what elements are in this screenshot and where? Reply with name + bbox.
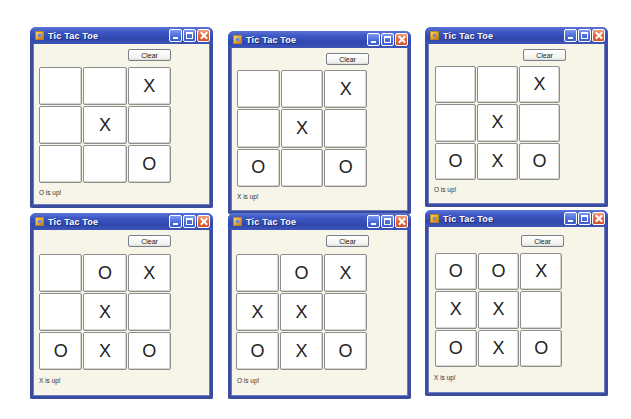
cell-r1c3[interactable]: X <box>324 70 367 108</box>
cell-r3c1[interactable]: O <box>435 143 476 180</box>
cell-r3c1[interactable] <box>39 145 82 183</box>
close-icon[interactable] <box>395 215 408 228</box>
cell-r2c3[interactable] <box>128 106 171 144</box>
minimize-icon[interactable] <box>169 215 182 228</box>
minimize-icon[interactable] <box>564 212 577 225</box>
cell-r1c2[interactable] <box>477 66 518 103</box>
clear-button[interactable]: Clear <box>128 235 171 247</box>
app-icon <box>35 217 44 226</box>
turn-status: O is up! <box>39 189 61 196</box>
cell-r2c3[interactable] <box>128 293 171 331</box>
close-icon[interactable] <box>395 33 408 46</box>
client-area: Clear X X O X O O is up! <box>428 44 605 207</box>
cell-r2c3[interactable] <box>324 109 367 147</box>
cell-r1c2[interactable]: O <box>478 253 520 290</box>
cell-r3c3[interactable]: O <box>324 149 367 187</box>
tictactoe-window-2: Tic Tac Toe Clear X X O O X is up! <box>228 31 411 214</box>
cell-r3c1[interactable]: O <box>39 332 82 370</box>
cell-r3c3[interactable]: O <box>128 145 171 183</box>
clear-button[interactable]: Clear <box>128 49 171 61</box>
game-board: O X X X O X O <box>236 254 367 370</box>
cell-r3c3[interactable]: O <box>324 332 367 370</box>
app-icon <box>430 214 439 223</box>
cell-r1c2[interactable] <box>281 70 324 108</box>
title-bar[interactable]: Tic Tac Toe <box>30 27 213 44</box>
close-icon[interactable] <box>592 212 605 225</box>
cell-r3c2[interactable]: X <box>83 332 126 370</box>
close-icon[interactable] <box>197 215 210 228</box>
cell-r3c1[interactable]: O <box>236 332 279 370</box>
cell-r3c3[interactable]: O <box>519 143 560 180</box>
cell-r3c2[interactable] <box>83 145 126 183</box>
clear-button[interactable]: Clear <box>523 49 566 61</box>
close-icon[interactable] <box>592 29 605 42</box>
cell-r3c3[interactable]: O <box>128 332 171 370</box>
cell-r1c3[interactable]: X <box>520 253 562 290</box>
minimize-icon[interactable] <box>367 215 380 228</box>
cell-r2c2[interactable]: X <box>280 293 323 331</box>
maximize-icon[interactable] <box>381 33 394 46</box>
cell-r1c3[interactable]: X <box>519 66 560 103</box>
cell-r1c1[interactable] <box>435 66 476 103</box>
cell-r1c3[interactable]: X <box>324 254 367 292</box>
client-area: Clear O O X X X O X O X is up! <box>428 227 605 390</box>
cell-r1c2[interactable]: O <box>83 254 126 292</box>
cell-r3c2[interactable]: X <box>478 330 520 367</box>
maximize-icon[interactable] <box>578 212 591 225</box>
minimize-icon[interactable] <box>169 29 182 42</box>
title-bar[interactable]: Tic Tac Toe <box>30 213 213 230</box>
cell-r2c1[interactable] <box>39 106 82 144</box>
clear-button[interactable]: Clear <box>521 235 564 247</box>
cell-r3c1[interactable]: O <box>435 330 477 367</box>
cell-r1c2[interactable] <box>83 67 126 105</box>
cell-r1c1[interactable]: O <box>435 253 477 290</box>
cell-r3c2[interactable]: X <box>280 332 323 370</box>
clear-button[interactable]: Clear <box>326 235 369 247</box>
cell-r1c1[interactable] <box>39 254 82 292</box>
maximize-icon[interactable] <box>381 215 394 228</box>
cell-r2c2[interactable]: X <box>478 291 520 328</box>
cell-r3c2[interactable] <box>281 149 324 187</box>
minimize-icon[interactable] <box>564 29 577 42</box>
cell-r1c2[interactable]: O <box>280 254 323 292</box>
cell-r2c1[interactable]: X <box>236 293 279 331</box>
cell-r2c3[interactable] <box>520 291 562 328</box>
tictactoe-window-3: Tic Tac Toe Clear X X O X O O is up! <box>425 27 608 207</box>
cell-r2c3[interactable] <box>324 293 367 331</box>
minimize-icon[interactable] <box>367 33 380 46</box>
close-icon[interactable] <box>197 29 210 42</box>
game-board: X X O <box>39 67 171 183</box>
app-icon <box>233 35 242 44</box>
turn-status: O is up! <box>237 377 259 384</box>
title-bar[interactable]: Tic Tac Toe <box>425 210 608 227</box>
title-bar[interactable]: Tic Tac Toe <box>228 31 411 48</box>
maximize-icon[interactable] <box>578 29 591 42</box>
cell-r3c1[interactable]: O <box>237 149 280 187</box>
cell-r3c3[interactable]: O <box>520 330 562 367</box>
cell-r2c2[interactable]: X <box>477 104 518 141</box>
maximize-icon[interactable] <box>183 215 196 228</box>
cell-r1c3[interactable]: X <box>128 67 171 105</box>
cell-r2c2[interactable]: X <box>281 109 324 147</box>
cell-r2c3[interactable] <box>519 104 560 141</box>
cell-r3c2[interactable]: X <box>477 143 518 180</box>
clear-button[interactable]: Clear <box>326 53 369 65</box>
turn-status: X is up! <box>237 193 259 200</box>
cell-r2c2[interactable]: X <box>83 293 126 331</box>
cell-r2c2[interactable]: X <box>83 106 126 144</box>
window-title: Tic Tac Toe <box>48 31 169 41</box>
client-area: Clear X X O O is up! <box>33 44 210 207</box>
app-icon <box>35 31 44 40</box>
title-bar[interactable]: Tic Tac Toe <box>425 27 608 44</box>
maximize-icon[interactable] <box>183 29 196 42</box>
cell-r2c1[interactable] <box>39 293 82 331</box>
cell-r2c1[interactable] <box>435 104 476 141</box>
cell-r2c1[interactable]: X <box>435 291 477 328</box>
client-area: Clear O X X X O X O O is up! <box>231 230 408 393</box>
cell-r1c1[interactable] <box>236 254 279 292</box>
title-bar[interactable]: Tic Tac Toe <box>228 213 411 230</box>
cell-r1c1[interactable] <box>237 70 280 108</box>
cell-r2c1[interactable] <box>237 109 280 147</box>
cell-r1c1[interactable] <box>39 67 82 105</box>
cell-r1c3[interactable]: X <box>128 254 171 292</box>
